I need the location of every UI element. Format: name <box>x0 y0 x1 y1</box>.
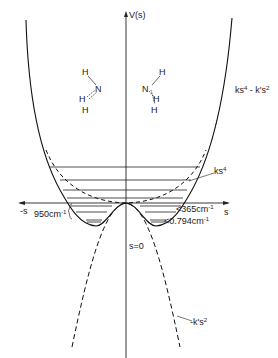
left-h-mid: H <box>79 95 86 104</box>
right-h-bot: H <box>151 106 158 115</box>
s-axis-neg-label: -s <box>20 207 28 216</box>
ks4-leader <box>189 173 214 181</box>
s-axis-arrowhead-left <box>18 201 25 205</box>
double-well-label: ks4 - k's2 <box>235 86 269 95</box>
v-axis-label: V(s) <box>129 11 146 20</box>
left-h-bot: H <box>82 106 89 115</box>
right-h-mid: H <box>153 95 160 104</box>
s-axis-pos-label: s <box>224 208 229 217</box>
barrier-height-label: 950cm-1 <box>34 210 66 219</box>
left-h-top: H <box>82 68 89 77</box>
right-h-top: H <box>159 68 166 77</box>
s-axis-arrowhead-right <box>223 201 230 205</box>
double-well-curve <box>26 18 232 226</box>
quartic-label: ks4 <box>214 167 226 176</box>
left-n: N <box>95 85 102 94</box>
right-n: N <box>142 85 149 94</box>
v-axis-arrowhead <box>124 11 128 17</box>
origin-label: s=0 <box>129 242 144 251</box>
double-well-potential-diagram <box>0 0 278 358</box>
upper-splitting-label: <365cm-1 <box>176 205 214 214</box>
inverted-parabola-label: -k's2 <box>190 318 207 327</box>
lower-splitting-label: <0.794cm-1 <box>164 217 209 226</box>
